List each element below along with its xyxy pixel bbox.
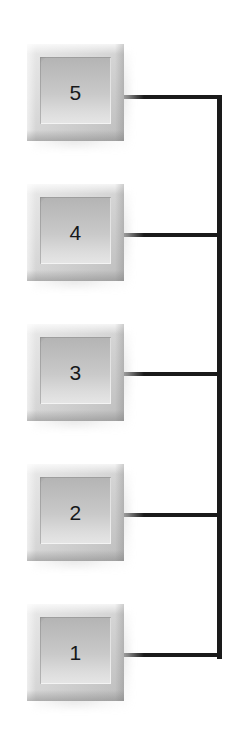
node-box-1[interactable]: 1	[27, 604, 124, 701]
connector-branch-4	[118, 233, 222, 237]
connector-spine	[217, 95, 222, 659]
connector-branch-1	[118, 653, 222, 657]
node-label: 2	[27, 464, 124, 561]
node-box-2[interactable]: 2	[27, 464, 124, 561]
node-label: 3	[27, 324, 124, 421]
node-box-5[interactable]: 5	[27, 44, 124, 141]
node-label: 4	[27, 184, 124, 281]
diagram-canvas: 5 4 3 2 1	[0, 0, 246, 756]
connector-branch-3	[118, 372, 222, 376]
node-label: 1	[27, 604, 124, 701]
node-label: 5	[27, 44, 124, 141]
connector-branch-2	[118, 513, 222, 517]
node-box-3[interactable]: 3	[27, 324, 124, 421]
connector-branch-5	[118, 95, 222, 99]
node-box-4[interactable]: 4	[27, 184, 124, 281]
